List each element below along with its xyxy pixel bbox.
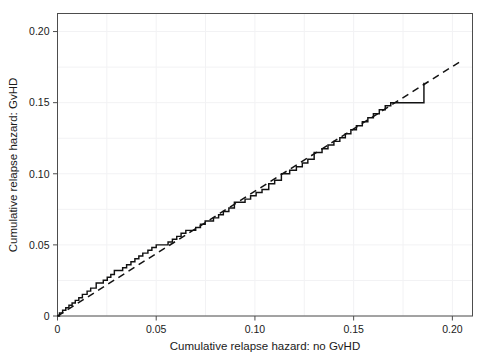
x-tick-label: 0.10	[245, 323, 266, 335]
x-tick-label: 0.20	[442, 323, 463, 335]
x-tick-label: 0.15	[343, 323, 364, 335]
y-tick-label: 0.05	[29, 239, 50, 251]
x-axis-title: Cumulative relapse hazard: no GvHD	[170, 340, 360, 352]
y-tick-label: 0.10	[29, 168, 50, 180]
chart-figure: 00.050.100.150.20 00.050.100.150.20 Cumu…	[0, 0, 491, 360]
x-tick-label: 0.05	[146, 323, 167, 335]
cumulative-hazard-scatter-plot: 00.050.100.150.20 00.050.100.150.20 Cumu…	[0, 0, 491, 360]
y-tick-label: 0.20	[29, 25, 50, 37]
y-tick-label: 0	[44, 310, 50, 322]
y-tick-label: 0.15	[29, 96, 50, 108]
y-axis-title: Cumulative relapse hazard: GvHD	[7, 78, 19, 253]
x-tick-label: 0	[55, 323, 61, 335]
